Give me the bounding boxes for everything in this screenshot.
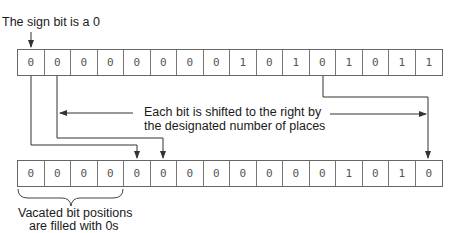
bit-cell: 0	[310, 161, 337, 186]
bit-cell: 1	[416, 50, 443, 75]
bit-cell: 0	[177, 161, 204, 186]
bit-cell: 0	[204, 50, 231, 75]
bit-cell: 0	[124, 161, 151, 186]
bit-cell: 1	[389, 50, 416, 75]
bit-cell: 0	[98, 161, 125, 186]
bit-cell: 0	[257, 161, 284, 186]
vacated-brace	[18, 189, 123, 206]
shift-label-line1: Each bit is shifted to the right by	[144, 106, 321, 119]
vacated-label-line2: are filled with 0s	[29, 220, 119, 233]
bit-cell: 0	[151, 161, 178, 186]
bit-cell: 0	[416, 161, 443, 186]
shift-line-bit12	[323, 76, 428, 158]
top-bit-row: 0 0 0 0 0 0 0 0 1 0 1 0 1 0 1 1	[17, 49, 443, 76]
bottom-bit-row: 0 0 0 0 0 0 0 0 0 0 0 0 1 0 1 0	[17, 160, 443, 187]
bit-cell: 1	[283, 50, 310, 75]
bit-cell: 0	[230, 161, 257, 186]
bit-cell: 0	[310, 50, 337, 75]
bit-cell: 0	[71, 161, 98, 186]
bit-cell: 0	[45, 161, 72, 186]
bit-cell: 0	[257, 50, 284, 75]
bit-cell: 1	[336, 161, 363, 186]
bit-cell: 0	[283, 161, 310, 186]
bit-cell: 0	[363, 50, 390, 75]
bit-cell: 0	[124, 50, 151, 75]
bit-cell: 1	[230, 50, 257, 75]
bit-cell: 1	[389, 161, 416, 186]
bit-cell: 0	[177, 50, 204, 75]
sign-bit-label: The sign bit is a 0	[2, 16, 100, 29]
bit-cell: 0	[18, 50, 45, 75]
bit-cell: 0	[45, 50, 72, 75]
bit-cell: 0	[151, 50, 178, 75]
bit-cell: 0	[98, 50, 125, 75]
shift-line-bit1	[31, 76, 137, 158]
bit-cell: 0	[18, 161, 45, 186]
shift-label-line2: the designated number of places	[144, 120, 325, 133]
bit-cell: 1	[336, 50, 363, 75]
bit-cell: 0	[204, 161, 231, 186]
bit-cell: 0	[71, 50, 98, 75]
bit-cell: 0	[363, 161, 390, 186]
